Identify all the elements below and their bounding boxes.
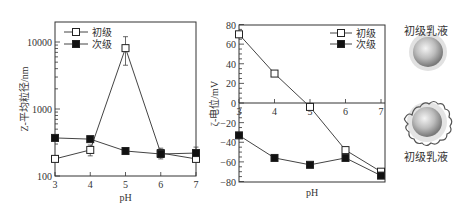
legend-label: 次级 [356,38,376,50]
x-axis-label: pH [119,192,131,203]
data-point [52,155,59,162]
y-tick-label: −20 [220,118,236,129]
series-line [239,135,381,175]
data-point [122,148,129,155]
x-tick-label: 7 [379,106,384,117]
data-point [236,31,243,38]
data-point [342,147,349,154]
y-tick-label: 100 [37,171,52,182]
data-point [271,154,278,161]
data-point [307,161,314,168]
data-point [193,150,200,157]
data-point [87,136,94,143]
x-axis-label: pH [306,187,318,198]
y-axis-label: ζ-电位/mV [208,80,221,126]
zeta-potential-chart: 806040200−20−40−60−8034567pHζ-电位/mV初级次级 [208,20,385,199]
emulsion-illustrations [404,33,451,146]
legend-label: 次级 [92,38,112,50]
data-point [307,103,314,110]
top-illustration-caption: 初级乳液 [404,22,448,38]
data-point [271,70,278,77]
x-tick-label: 5 [123,179,128,190]
y-tick-label: 1000 [32,104,52,115]
data-point [236,132,243,139]
legend-marker [338,30,345,37]
y-tick-label: 60 [226,39,236,50]
data-point [52,134,59,141]
y-tick-label: 0 [231,98,236,109]
x-tick-label: 4 [272,106,277,117]
primary-emulsion-droplet [409,33,447,71]
data-point [87,146,94,153]
y-tick-label: −60 [220,157,236,168]
legend-marker [73,29,80,36]
figure: 10010001000034567pHZ-平均粒径/nm初级次级 8060402… [0,0,469,210]
particle-size-chart: 10010001000034567pHZ-平均粒径/nm初级次级 [18,22,200,203]
legend-label: 初级 [92,26,112,38]
bottom-illustration-caption: 初级乳液 [404,148,448,164]
x-tick-label: 4 [88,179,93,190]
legend-label: 初级 [356,27,376,39]
data-point [122,45,129,52]
coated-emulsion-droplet [404,102,451,146]
data-point [378,172,385,179]
x-tick-label: 3 [53,179,58,190]
data-point [157,150,164,157]
y-tick-label: −40 [220,137,236,148]
x-tick-label: 6 [343,106,348,117]
data-point [342,154,349,161]
x-tick-label: 3 [237,106,242,117]
legend-marker [73,41,80,48]
x-tick-label: 6 [158,179,163,190]
x-tick-label: 7 [194,179,199,190]
y-tick-label: 80 [226,20,236,31]
y-axis-label: Z-平均粒径/nm [18,66,30,131]
y-tick-label: −80 [220,177,236,188]
y-tick-label: 20 [226,78,236,89]
legend-marker [338,41,345,48]
y-tick-label: 10000 [27,37,52,48]
y-tick-label: 40 [226,59,236,70]
